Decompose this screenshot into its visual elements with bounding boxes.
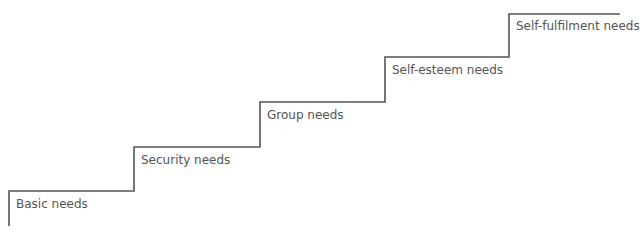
step-label-group-needs: Group needs	[267, 108, 344, 122]
step-label-self-esteem-needs: Self-esteem needs	[392, 63, 503, 77]
step-label-basic-needs: Basic needs	[16, 197, 88, 211]
step-label-security-needs: Security needs	[141, 153, 230, 167]
step-label-self-fulfilment-needs: Self-fulfilment needs	[516, 19, 640, 33]
